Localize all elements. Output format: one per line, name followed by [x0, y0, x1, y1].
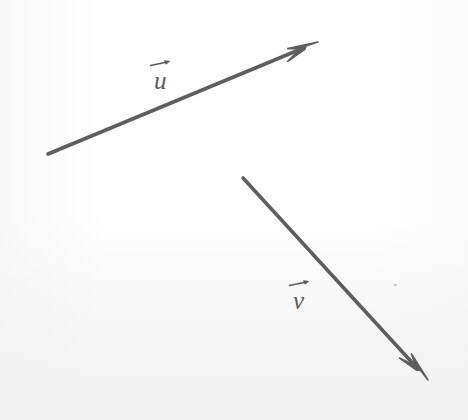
vector-label-u: u [154, 58, 167, 93]
over-right-arrow-icon [154, 58, 167, 69]
over-right-arrow-icon [293, 278, 304, 289]
vector-label-v: v [293, 278, 304, 313]
vector-drawing [0, 0, 468, 420]
vector-label-u-text: u [154, 68, 167, 93]
vector-diagram-canvas: u v [0, 0, 468, 420]
scan-speck [394, 284, 397, 286]
vector-v-shaft [243, 178, 413, 364]
vector-u-shaft [48, 50, 298, 154]
vector-v [243, 178, 428, 380]
vector-u [48, 42, 318, 154]
vector-v-arrowhead [400, 354, 428, 380]
vector-label-v-text: v [293, 288, 304, 313]
